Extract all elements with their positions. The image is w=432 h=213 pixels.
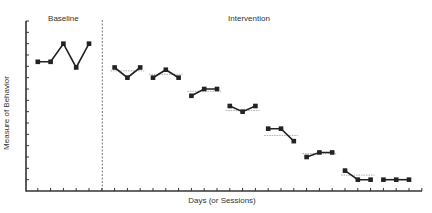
square-marker [176,75,181,80]
square-marker [61,41,66,46]
intervention-phase-label: Intervention [228,14,270,23]
square-marker [407,177,412,182]
data-series [36,41,412,182]
series-segment [266,126,296,143]
baseline-phase-label: Baseline [48,14,79,23]
square-marker [112,65,117,70]
square-marker [138,65,143,70]
square-marker [189,94,194,99]
square-marker [381,177,386,182]
square-marker [215,87,220,92]
square-marker [164,67,169,72]
x-axis-label: Days (or Sessions) [188,196,256,205]
series-segment [228,104,258,114]
square-marker [240,109,245,114]
square-marker [330,150,335,155]
axes [26,20,422,192]
square-marker [87,41,92,46]
series-segment [381,177,411,182]
series-line [38,44,89,68]
square-marker [228,104,233,109]
square-marker [125,75,130,80]
y-axis-label: Measure of Behavior [2,76,11,150]
square-marker [48,60,53,65]
chart-canvas: Baseline Intervention Days (or Sessions)… [0,0,432,213]
series-segment [304,150,334,159]
series-segment [36,41,92,69]
square-marker [36,60,41,65]
square-marker [74,65,79,70]
series-segment [112,65,142,80]
square-marker [202,87,207,92]
square-marker [368,177,373,182]
square-marker [266,126,271,131]
series-segment [151,67,181,80]
square-marker [304,155,309,160]
square-marker [343,168,348,173]
square-marker [151,75,156,80]
phase-mean-lines [111,71,375,175]
square-marker [317,150,322,155]
series-segment [189,87,219,98]
square-marker [394,177,399,182]
square-marker [279,126,284,131]
square-marker [253,104,258,109]
square-marker [292,139,297,144]
single-subject-design-chart: Baseline Intervention Days (or Sessions)… [0,0,432,213]
square-marker [356,177,361,182]
